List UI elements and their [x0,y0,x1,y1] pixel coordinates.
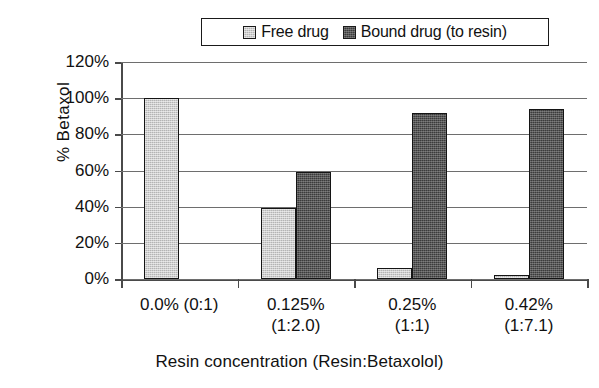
x-axis-category-separator [587,279,589,288]
x-axis-category-separator [471,279,473,288]
x-axis-tick-label-line: 0.25% [354,294,471,315]
y-axis-tick-label: 80% [0,125,109,142]
bar-free-drug [377,268,412,279]
bar-bound-drug [529,109,564,279]
x-axis-tick-label-line: (1:7.1) [471,315,588,336]
plot-area [121,62,587,279]
y-axis-tick [115,171,121,173]
legend-label-bound-drug: Bound drug (to resin) [361,24,507,40]
gridline [121,98,587,99]
y-axis-tick-label: 120% [0,53,109,70]
x-axis-tick-label: 0.0% (0:1) [121,294,238,315]
y-axis-tick [115,207,121,209]
y-axis-tick [115,134,121,136]
bar-bound-drug [296,172,331,279]
y-axis-tick-label: 0% [0,270,109,287]
bar-bound-drug [412,113,447,279]
y-axis-tick-label: 40% [0,198,109,215]
y-axis-tick-label: 20% [0,234,109,251]
y-axis-tick [115,243,121,245]
x-axis-title: Resin concentration (Resin:Betaxolol) [0,352,599,372]
x-axis-tick-label-line: 0.125% [238,294,355,315]
x-axis-tick-label-line: (1:1) [354,315,471,336]
gridline [121,62,587,63]
x-axis-tick-label-line: 0.42% [471,294,588,315]
x-axis-category-separator [238,279,240,288]
bar-free-drug [494,275,529,279]
y-axis-tick [115,62,121,64]
legend-label-free-drug: Free drug [261,24,329,40]
bar-free-drug [261,208,296,279]
legend-item-free-drug: Free drug [243,24,329,40]
gridline [121,134,587,135]
gridline [121,243,587,244]
x-axis-tick-label: 0.125%(1:2.0) [238,294,355,336]
legend-swatch-bound-drug-icon [343,26,356,39]
bar-chart: Free drug Bound drug (to resin) % Betaxo… [0,0,599,388]
x-axis-tick-label-line: (1:2.0) [238,315,355,336]
gridline [121,171,587,172]
x-axis-category-separator [121,279,123,288]
legend-item-bound-drug: Bound drug (to resin) [343,24,507,40]
x-axis-tick-label: 0.25%(1:1) [354,294,471,336]
y-axis-tick-label: 60% [0,162,109,179]
y-axis-tick [115,98,121,100]
chart-legend: Free drug Bound drug (to resin) [201,18,549,46]
y-axis-tick-label: 100% [0,89,109,106]
bar-free-drug [144,98,179,279]
x-axis-category-separator [354,279,356,288]
gridline [121,207,587,208]
x-axis-tick-label: 0.42%(1:7.1) [471,294,588,336]
legend-swatch-free-drug-icon [243,26,256,39]
x-axis-tick-label-line: 0.0% (0:1) [121,294,238,315]
